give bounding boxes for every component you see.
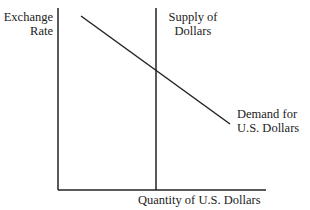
supply-label-line1: Supply of [163, 10, 223, 24]
demand-label: Demand for U.S. Dollars [237, 107, 310, 135]
demand-label-line2: U.S. Dollars [237, 121, 310, 135]
y-axis-label-line1: Exchange [0, 10, 53, 24]
x-axis-label: Quantity of U.S. Dollars [138, 193, 308, 207]
demand-label-line1: Demand for [237, 107, 310, 121]
supply-label-line2: Dollars [163, 24, 223, 38]
y-axis-label: Exchange Rate [0, 10, 53, 38]
y-axis-label-line2: Rate [0, 24, 53, 38]
supply-label: Supply of Dollars [163, 10, 223, 38]
